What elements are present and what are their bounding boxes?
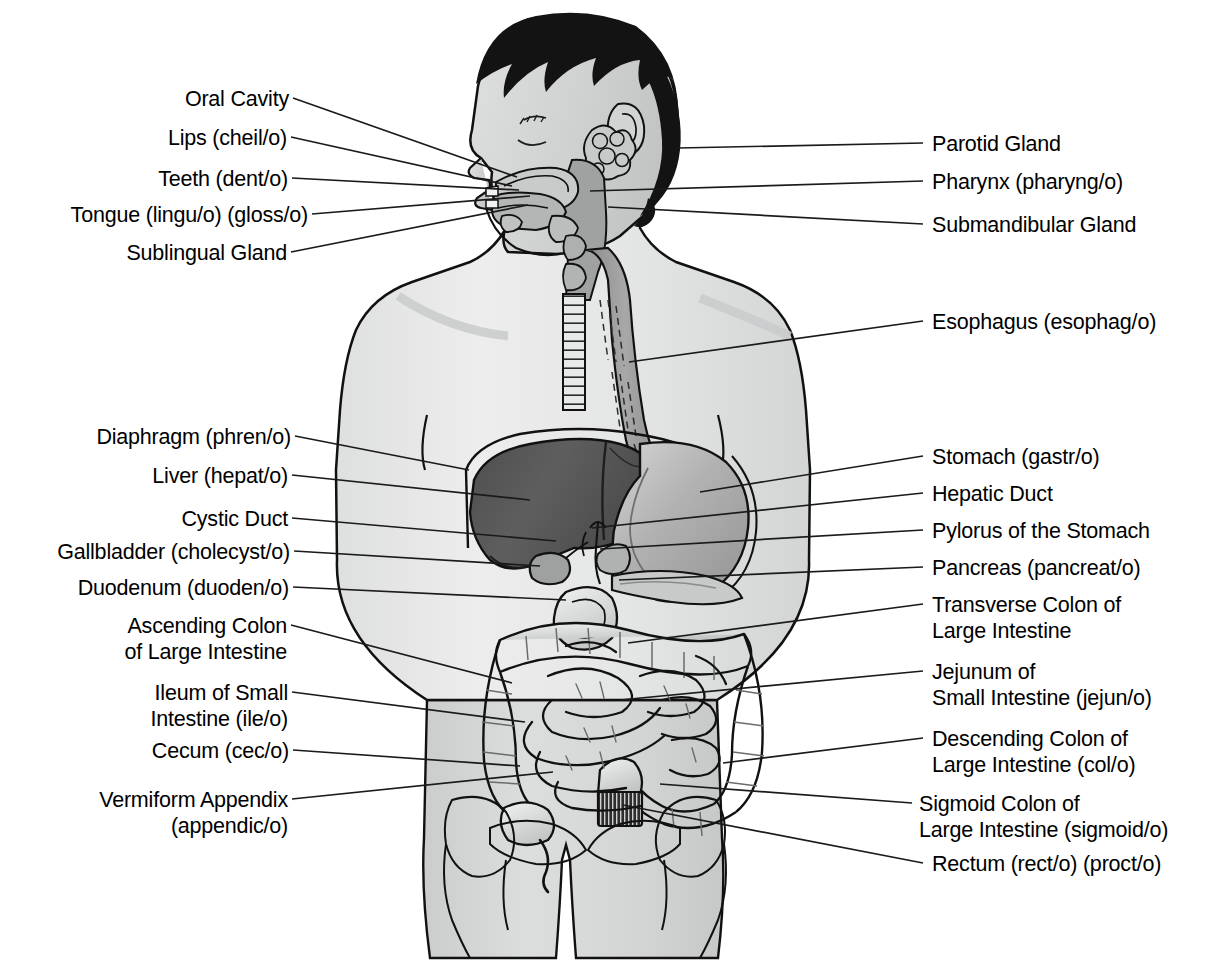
label-cecum: Cecum (cec/o): [138, 738, 289, 764]
label-line: Gallbladder (cholecyst/o): [31, 539, 290, 565]
label-line: Cystic Duct: [167, 506, 288, 532]
label-line: Large Intestine: [932, 618, 1121, 644]
label-line: Cecum (cec/o): [138, 738, 289, 764]
label-submandibular-gland: Submandibular Gland: [932, 212, 1136, 238]
label-esophagus: Esophagus (esophag/o): [932, 309, 1156, 335]
label-jejunum: Jejunum ofSmall Intestine (jejun/o): [932, 659, 1152, 711]
label-line: Esophagus (esophag/o): [932, 309, 1156, 335]
label-pylorus: Pylorus of the Stomach: [932, 518, 1150, 544]
label-ileum: Ileum of SmallIntestine (ile/o): [130, 680, 288, 732]
label-sigmoid-colon: Sigmoid Colon ofLarge Intestine (sigmoid…: [919, 791, 1168, 843]
label-line: Ileum of Small: [130, 680, 288, 706]
label-line: Vermiform Appendix: [72, 787, 288, 813]
label-line: Pylorus of the Stomach: [932, 518, 1150, 544]
label-line: Ascending Colon: [106, 613, 287, 639]
label-hepatic-duct: Hepatic Duct: [932, 481, 1053, 507]
label-line: Tongue (lingu/o) (gloss/o): [28, 202, 308, 228]
label-ascending-colon: Ascending Colonof Large Intestine: [106, 613, 287, 665]
label-line: Transverse Colon of: [932, 592, 1121, 618]
label-oral-cavity: Oral Cavity: [170, 86, 289, 112]
label-tongue: Tongue (lingu/o) (gloss/o): [28, 202, 308, 228]
label-line: Pancreas (pancreat/o): [932, 555, 1141, 581]
label-teeth: Teeth (dent/o): [148, 166, 288, 192]
label-line: Sublingual Gland: [112, 240, 287, 266]
label-line: Large Intestine (col/o): [932, 752, 1135, 778]
label-cystic-duct: Cystic Duct: [167, 506, 288, 532]
label-line: Stomach (gastr/o): [932, 444, 1099, 470]
label-duodenum: Duodenum (duoden/o): [70, 575, 289, 601]
label-line: Liver (hepat/o): [133, 463, 288, 489]
label-line: of Large Intestine: [106, 639, 287, 665]
gallbladder: [530, 553, 570, 584]
label-line: Teeth (dent/o): [148, 166, 288, 192]
label-line: Diaphragm (phren/o): [75, 424, 291, 450]
digestive-system-diagram: Oral CavityLips (cheil/o)Teeth (dent/o)T…: [0, 0, 1216, 960]
label-stomach: Stomach (gastr/o): [932, 444, 1099, 470]
label-line: Submandibular Gland: [932, 212, 1136, 238]
label-line: Duodenum (duoden/o): [70, 575, 289, 601]
label-line: Rectum (rect/o) (proct/o): [932, 851, 1161, 877]
label-line: Small Intestine (jejun/o): [932, 685, 1152, 711]
label-line: (appendic/o): [72, 813, 288, 839]
label-line: Sigmoid Colon of: [919, 791, 1168, 817]
label-line: Large Intestine (sigmoid/o): [919, 817, 1168, 843]
label-line: Intestine (ile/o): [130, 706, 288, 732]
label-line: Parotid Gland: [932, 131, 1061, 157]
label-transverse-colon: Transverse Colon ofLarge Intestine: [932, 592, 1121, 644]
label-parotid-gland: Parotid Gland: [932, 131, 1061, 157]
label-sublingual-gland: Sublingual Gland: [112, 240, 287, 266]
duodenum: [554, 587, 617, 649]
label-line: Descending Colon of: [932, 726, 1135, 752]
label-line: Jejunum of: [932, 659, 1152, 685]
label-rectum: Rectum (rect/o) (proct/o): [932, 851, 1161, 877]
label-line: Lips (cheil/o): [152, 125, 287, 151]
label-line: Hepatic Duct: [932, 481, 1053, 507]
trachea: [563, 294, 585, 410]
label-vermiform-appendix: Vermiform Appendix(appendic/o): [72, 787, 288, 839]
label-line: Pharynx (pharyng/o): [932, 169, 1123, 195]
label-liver: Liver (hepat/o): [133, 463, 288, 489]
label-line: Oral Cavity: [170, 86, 289, 112]
label-lips: Lips (cheil/o): [152, 125, 287, 151]
label-pancreas: Pancreas (pancreat/o): [932, 555, 1141, 581]
label-descending-colon: Descending Colon ofLarge Intestine (col/…: [932, 726, 1135, 778]
label-gallbladder: Gallbladder (cholecyst/o): [31, 539, 290, 565]
cecum: [501, 802, 554, 845]
label-pharynx: Pharynx (pharyng/o): [932, 169, 1123, 195]
label-diaphragm: Diaphragm (phren/o): [75, 424, 291, 450]
